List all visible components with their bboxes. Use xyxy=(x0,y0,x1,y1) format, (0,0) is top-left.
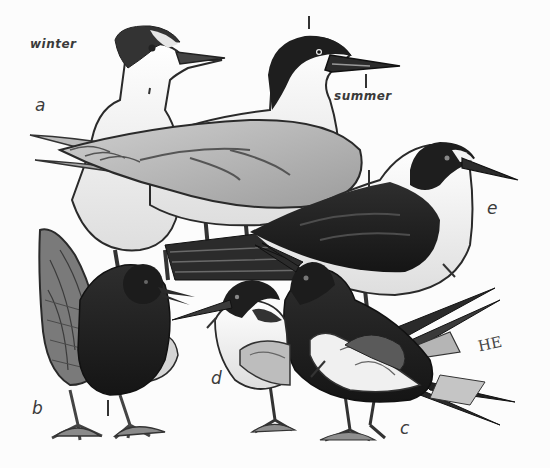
label-a: a xyxy=(35,97,45,114)
label-summer: summer xyxy=(334,90,392,102)
label-b: b xyxy=(32,400,43,417)
label-winter: winter xyxy=(30,38,77,50)
label-d: d xyxy=(211,370,222,387)
tern-d xyxy=(172,280,295,432)
tern-drawing xyxy=(0,0,550,468)
pointer-mark xyxy=(149,88,150,94)
label-c: c xyxy=(400,420,409,437)
tern-illustration-plate: winter summer a b c d e HE xyxy=(0,0,550,468)
label-e: e xyxy=(487,200,497,217)
